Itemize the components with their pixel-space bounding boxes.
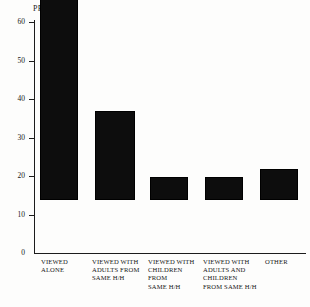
x-axis-category-label-line: SAME H/H — [148, 283, 194, 291]
x-axis-category-label-line: FROM SAME H/H — [203, 283, 257, 291]
x-axis-category-label-line: SAME H/H — [92, 274, 139, 282]
bars-layer — [0, 0, 310, 254]
x-axis-category-label: VIEWEDALONE — [41, 258, 68, 274]
bar — [150, 177, 188, 200]
x-axis-category-labels: VIEWEDALONEVIEWED WITHADULTS FROMSAME H/… — [0, 258, 310, 307]
bar — [40, 0, 78, 200]
x-axis-category-label-line: OTHER — [265, 258, 288, 266]
x-axis-category-label-line: VIEWED WITH — [92, 258, 139, 266]
x-axis-category-label-line: VIEWED WITH — [148, 258, 194, 266]
x-axis-category-label-line: ADULTS AND — [203, 266, 257, 274]
x-axis-category-label-line: ALONE — [41, 266, 68, 274]
bar — [95, 111, 135, 200]
x-axis-category-label-line: VIEWED WITH — [203, 258, 257, 266]
x-axis-category-label: VIEWED WITHCHILDRENFROMSAME H/H — [148, 258, 194, 291]
x-axis-category-label-line: FROM — [148, 274, 194, 282]
x-axis-category-label: VIEWED WITHADULTS FROMSAME H/H — [92, 258, 139, 283]
x-axis-category-label-line: ADULTS FROM — [92, 266, 139, 274]
x-axis-category-label-line: CHILDREN — [148, 266, 194, 274]
x-axis-category-label: OTHER — [265, 258, 288, 266]
x-axis-category-label: VIEWED WITHADULTS ANDCHILDRENFROM SAME H… — [203, 258, 257, 291]
bar-chart: PERCENT 0102030405060 VIEWEDALONEVIEWED … — [0, 0, 310, 307]
x-axis-category-label-line: CHILDREN — [203, 274, 257, 282]
bar — [260, 169, 298, 200]
x-axis-category-label-line: VIEWED — [41, 258, 68, 266]
bar — [205, 177, 243, 200]
